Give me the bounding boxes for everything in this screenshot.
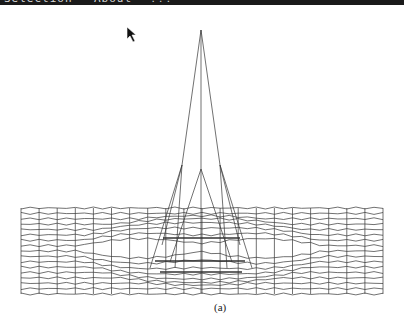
mesh-canvas[interactable] [0,5,404,332]
mouse-cursor-icon [124,24,138,44]
wireframe-mesh [21,207,383,295]
spike-wireframe [150,30,252,293]
figure-caption: (a) [214,301,226,313]
